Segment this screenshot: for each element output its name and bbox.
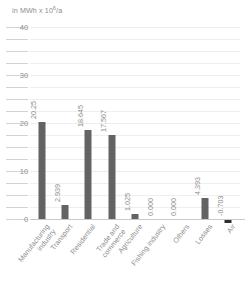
- y-axis-tick-label: 30: [6, 71, 28, 80]
- bar-value-label: 0.000: [169, 198, 178, 216]
- plot-area: 20.252.93918.64517.5671.0250.0000.0004.3…: [30, 27, 240, 219]
- x-axis-line: [30, 219, 245, 220]
- bar[interactable]: [61, 205, 68, 219]
- x-axis-label-slot: Residential: [77, 221, 100, 285]
- bar[interactable]: [108, 135, 115, 219]
- bar-value-label: 1.025: [123, 193, 132, 211]
- x-axis-category-label: Air: [226, 223, 237, 235]
- bar-slot: 2.939: [53, 27, 76, 219]
- bar-slot: 20.25: [30, 27, 53, 219]
- y-axis-unit-label: in MWh x 106/a: [12, 6, 62, 15]
- bar-value-label: 2.939: [53, 184, 62, 202]
- y-axis-tick-label: 20: [6, 119, 28, 128]
- bar-slot: 17.567: [100, 27, 123, 219]
- x-axis-category-label-line1: Air: [225, 222, 238, 234]
- y-axis-tick-labels: 403020100: [0, 27, 28, 219]
- x-axis-category-label-line1: Losses: [193, 222, 214, 245]
- x-axis-label-slot: Manufacturingindustry: [30, 221, 53, 285]
- x-axis-category-label: Losses: [194, 223, 214, 246]
- bar-slot: -0.703: [217, 27, 240, 219]
- y-axis-unit-suffix: /a: [56, 6, 62, 15]
- bar-value-label: 20.25: [29, 101, 38, 119]
- x-axis-label-slot: Losses: [193, 221, 216, 285]
- bar-slot: 4.393: [193, 27, 216, 219]
- x-axis-category-label: Others: [171, 223, 190, 245]
- bar[interactable]: [85, 130, 92, 219]
- bar-slot: 0.000: [170, 27, 193, 219]
- x-axis-label-slot: Fishing industry: [147, 221, 170, 285]
- x-axis-label-slot: Others: [170, 221, 193, 285]
- bar-value-label: 18.645: [76, 105, 85, 127]
- bar-slot: 0.000: [147, 27, 170, 219]
- bar-value-label: 17.567: [99, 110, 108, 132]
- x-axis-category-label-line1: Others: [171, 222, 191, 245]
- bar-value-label: 4.393: [193, 177, 202, 195]
- y-axis-tick-label: 40: [6, 23, 28, 32]
- bar-slot: 18.645: [77, 27, 100, 219]
- bar[interactable]: [38, 122, 45, 219]
- bar-value-label: 0.000: [146, 198, 155, 216]
- bar-slot: 1.025: [123, 27, 146, 219]
- bar[interactable]: [201, 198, 208, 219]
- y-axis-tick-label: 10: [6, 167, 28, 176]
- y-axis-tick-label: 0: [6, 215, 28, 224]
- x-axis-label-slot: Air: [217, 221, 240, 285]
- y-axis-unit-prefix: in MWh x 10: [12, 6, 53, 15]
- x-axis-category-labels: ManufacturingindustryTransportResidentia…: [30, 221, 240, 285]
- bar-value-label: -0.703: [216, 196, 225, 216]
- bar-chart: in MWh x 106/a 20.252.93918.64517.5671.0…: [0, 0, 250, 285]
